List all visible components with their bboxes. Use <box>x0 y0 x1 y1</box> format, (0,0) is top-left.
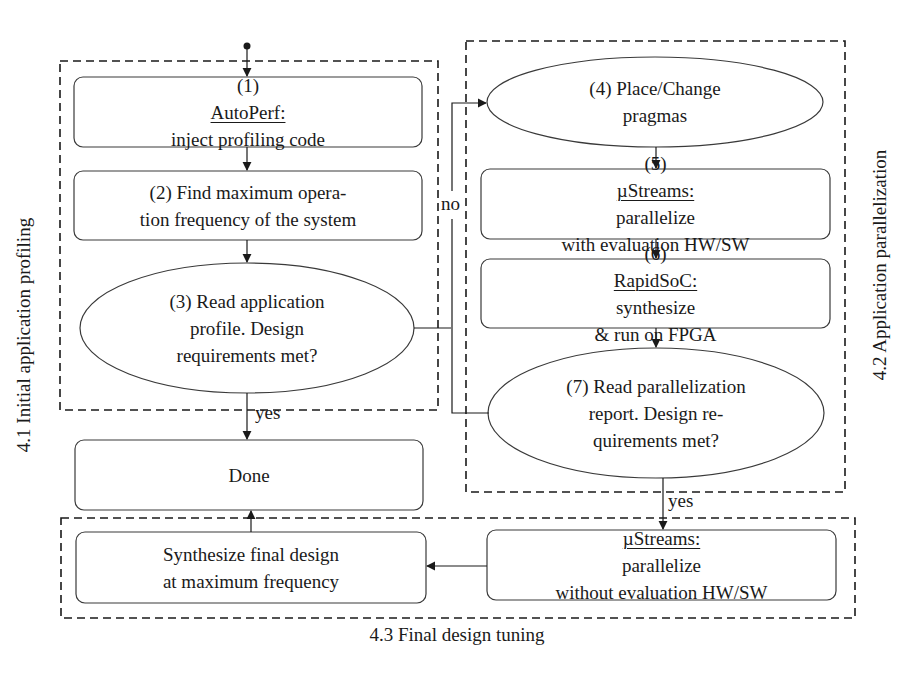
node-done: Done <box>75 440 423 510</box>
rapidsoc-tool-name: RapidSoC: <box>614 267 697 294</box>
node-6-prefix: (6) <box>614 240 697 267</box>
node-6-line-1-rest: synthesize <box>614 294 697 321</box>
node-final-streams-line-2: without evaluation HW/SW <box>555 579 767 606</box>
node-1-autoperf-inject: (1) AutoPerf: inject profiling code <box>74 77 422 147</box>
node-done-label: Done <box>228 462 269 489</box>
node-final-streams-line-1-rest: parallelize <box>622 552 701 579</box>
edge-label-yes-7: yes <box>668 492 693 510</box>
node-5-ustreams-eval: (5) µStreams: parallelize with evaluatio… <box>481 169 830 239</box>
node-4-place-change-pragmas: (4) Place/Change pragmas <box>487 57 823 147</box>
node-3-read-profile-decision: (3) Read application profile. Design req… <box>80 263 414 393</box>
ustreams-tool-name: µStreams: <box>616 177 695 204</box>
node-4-line-1: (4) Place/Change <box>589 75 720 102</box>
node-5-prefix: (5) <box>616 150 695 177</box>
node-6-rapidsoc-synthesize: (6) RapidSoC: synthesize & run on FPGA <box>481 259 830 328</box>
node-7-line-1: (7) Read parallelization <box>566 373 745 400</box>
node-ustreams-final: µStreams: parallelize without evaluation… <box>487 530 836 600</box>
node-7-line-3: quirements met? <box>593 427 719 454</box>
node-3-line-3: requirements met? <box>177 342 318 369</box>
edge-label-no: no <box>440 193 461 215</box>
node-synth-line-2: at maximum frequency <box>163 568 339 595</box>
node-2-find-max-frequency: (2) Find maximum opera- tion frequency o… <box>74 171 422 240</box>
node-3-line-1: (3) Read application <box>169 288 324 315</box>
node-7-line-2: report. Design re- <box>589 400 724 427</box>
group-label-4-3: 4.3 Final design tuning <box>369 624 544 646</box>
node-1-text: inject profiling code <box>171 126 325 153</box>
group-label-4-2: 4.2 Application parallelization <box>869 150 891 381</box>
autoperf-tool-name: AutoPerf: <box>171 99 325 126</box>
node-2-line-2: tion frequency of the system <box>140 206 356 233</box>
node-2-line-1: (2) Find maximum opera- <box>150 179 347 206</box>
node-1-prefix: (1) <box>171 72 325 99</box>
group-label-4-1: 4.1 Initial application profiling <box>13 218 35 452</box>
node-3-line-2: profile. Design <box>190 315 304 342</box>
node-synth-line-1: Synthesize final design <box>163 541 339 568</box>
node-6-line-2: & run on FPGA <box>595 321 717 348</box>
ustreams-final-tool-name: µStreams: <box>622 525 701 552</box>
node-synthesize-final: Synthesize final design at maximum frequ… <box>76 532 426 603</box>
node-4-line-2: pragmas <box>623 102 687 129</box>
node-5-line-1-rest: parallelize <box>616 204 695 231</box>
node-7-read-parallelization-decision: (7) Read parallelization report. Design … <box>488 348 824 478</box>
edge-label-yes-3: yes <box>255 404 280 422</box>
